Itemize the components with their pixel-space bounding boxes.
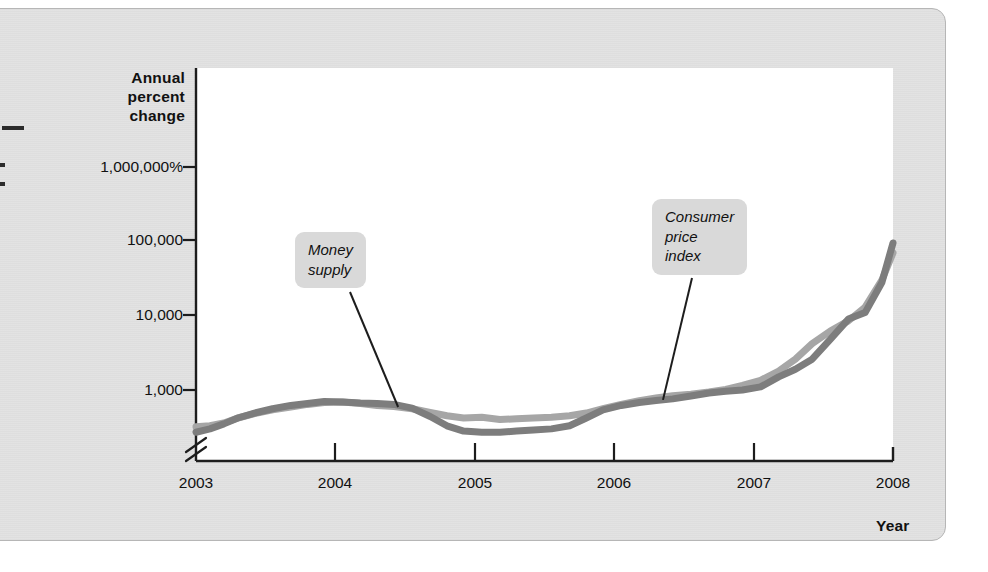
x-tick-marks bbox=[335, 443, 754, 461]
figure-container: Annualpercentchange 1,000,000% 100,000 1… bbox=[0, 0, 988, 572]
money-supply-callout: Money supply bbox=[295, 232, 366, 288]
leader-line-cpi bbox=[663, 278, 692, 400]
chart-svg bbox=[0, 0, 988, 572]
y-tick-marks bbox=[183, 167, 196, 390]
leader-line-money-supply bbox=[350, 292, 398, 407]
cpi-callout: Consumer price index bbox=[652, 199, 747, 275]
callout-leader-lines bbox=[350, 278, 692, 407]
